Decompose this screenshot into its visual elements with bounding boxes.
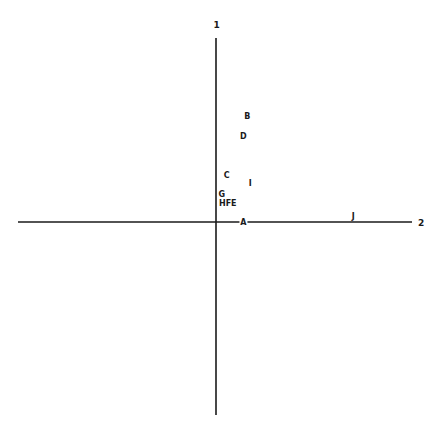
point-label-d: D [240,132,247,141]
point-label-j: J [351,212,355,221]
axis-1-label: 1 [214,20,220,30]
point-label-a: A [240,218,247,227]
axis-2-label: 2 [418,218,424,228]
point-labels: BDCIGHFEAJ [219,112,355,227]
point-label-hfe: HFE [219,199,237,208]
point-label-b: B [244,112,250,121]
ordination-plot: 2 1 BDCIGHFEAJ [0,0,440,429]
point-label-i: I [249,179,252,188]
point-label-c: C [224,171,230,180]
